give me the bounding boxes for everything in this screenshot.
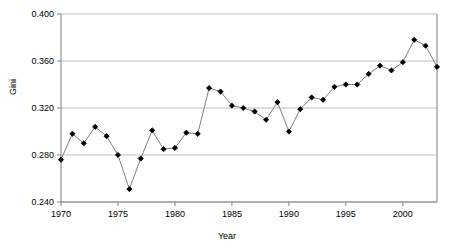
y-tick-label: 0.360 [31, 56, 54, 66]
x-tick-label: 1980 [165, 209, 185, 219]
x-axis-title: Year [0, 231, 454, 241]
y-tick-label: 0.400 [31, 9, 54, 19]
gridlines [61, 14, 437, 202]
x-tick-label: 1970 [51, 209, 71, 219]
y-tick-label: 0.280 [31, 150, 54, 160]
y-tick-label: 0.240 [31, 197, 54, 207]
data-point-marker [412, 37, 417, 42]
y-axis-title: Gini [8, 79, 18, 95]
data-point-marker [138, 156, 143, 161]
data-point-marker [434, 64, 439, 69]
gini-line-chart: 0.2400.2800.3200.3600.400197019751980198… [0, 0, 454, 252]
x-tick-label: 1975 [108, 209, 128, 219]
data-point-marker [58, 157, 63, 162]
x-tick-label: 1985 [222, 209, 242, 219]
x-tick-label: 1990 [279, 209, 299, 219]
data-point-marker [423, 43, 428, 48]
data-point-marker [343, 82, 348, 87]
data-point-marker [161, 147, 166, 152]
data-point-marker [150, 128, 155, 133]
data-point-marker [207, 85, 212, 90]
data-point-marker [127, 186, 132, 191]
series-markers-gini [58, 37, 439, 191]
data-point-marker [115, 152, 120, 157]
y-tick-label: 0.320 [31, 103, 54, 113]
x-axis-ticks: 1970197519801985199019952000 [51, 202, 413, 219]
x-tick-label: 2000 [393, 209, 413, 219]
data-point-marker [241, 105, 246, 110]
chart-plot-area: 0.2400.2800.3200.3600.400197019751980198… [0, 0, 454, 252]
data-point-marker [286, 129, 291, 134]
series-line-gini [61, 40, 437, 189]
y-axis-ticks: 0.2400.2800.3200.3600.400 [31, 9, 61, 207]
data-point-marker [275, 100, 280, 105]
x-tick-label: 1995 [336, 209, 356, 219]
data-point-marker [195, 131, 200, 136]
